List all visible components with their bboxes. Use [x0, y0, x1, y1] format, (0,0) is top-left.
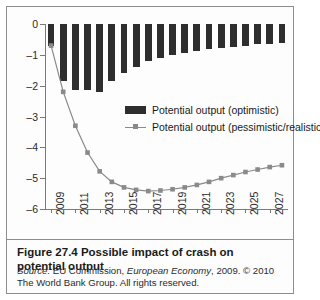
- line-marker: [73, 123, 78, 128]
- line-marker: [267, 165, 272, 170]
- legend-label-optimistic: Potential output (optimistic): [152, 104, 279, 116]
- line-marker: [231, 173, 236, 178]
- legend-item-optimistic: Potential output (optimistic): [125, 103, 293, 117]
- line-marker: [158, 188, 163, 193]
- line-marker: [97, 169, 102, 174]
- line-marker: [146, 189, 151, 194]
- line-marker: [85, 150, 90, 155]
- line-marker: [219, 176, 224, 181]
- source-text-part-1: EU Commission,: [50, 265, 127, 276]
- line-marker: [61, 90, 66, 95]
- legend-bar-swatch-icon: [125, 106, 146, 114]
- chart-plot-area: 0–1–2–3–4–5–6 20092011201320152017201920…: [7, 7, 293, 239]
- figure-card: 0–1–2–3–4–5–6 20092011201320152017201920…: [6, 6, 294, 294]
- legend-line-swatch-icon: [125, 123, 146, 131]
- line-marker: [243, 170, 248, 175]
- source-publication-title: European Economy: [127, 265, 211, 276]
- chart-legend: Potential output (optimistic) Potential …: [125, 103, 293, 137]
- line-marker: [255, 167, 260, 172]
- line-marker: [207, 180, 212, 185]
- line-marker: [182, 185, 187, 190]
- legend-item-pessimistic-realistic: Potential output (pessimistic/realistic): [125, 120, 293, 134]
- line-marker: [134, 188, 139, 193]
- line-marker: [195, 183, 200, 188]
- legend-label-pessimistic-realistic: Potential output (pessimistic/realistic): [152, 121, 302, 133]
- line-marker: [110, 180, 115, 185]
- line-marker: [122, 185, 127, 190]
- figure-source: Source: EU Commission, European Economy,…: [17, 265, 285, 289]
- source-label: Source:: [17, 265, 50, 276]
- line-marker: [170, 187, 175, 192]
- line-marker: [280, 163, 285, 168]
- line-marker: [49, 43, 54, 48]
- caption-divider: [7, 239, 293, 240]
